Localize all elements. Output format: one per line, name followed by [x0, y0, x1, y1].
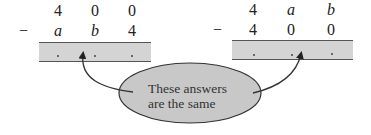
callout-label: These answers are the same	[148, 81, 232, 111]
callout-graphics	[0, 0, 371, 135]
callout-line-1: These answers	[148, 81, 232, 96]
callout-line-2: are the same	[148, 96, 232, 111]
